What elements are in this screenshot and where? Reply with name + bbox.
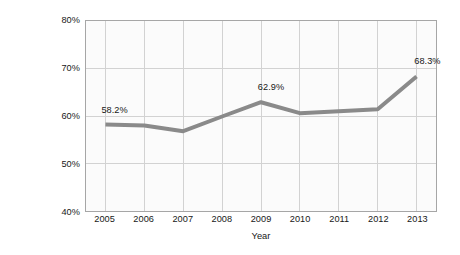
x-axis-tick-label: 2011 (329, 214, 349, 224)
x-axis-tick-label: 2013 (407, 214, 428, 224)
x-axis-title: Year (85, 231, 437, 241)
line-chart: Percentage to the Psychology Workforce 8… (0, 0, 460, 255)
x-axis-tick-label: 2005 (94, 214, 115, 224)
data-point-label: 68.3% (414, 56, 440, 66)
x-axis-tick-labels: 200520062007200820092010201120122013 (85, 214, 437, 230)
x-axis-tick-label: 2007 (172, 214, 193, 224)
y-axis-tick-label: 40% (52, 207, 80, 217)
x-axis-tick-label: 2010 (290, 214, 311, 224)
x-axis-tick-label: 2008 (212, 214, 233, 224)
x-axis-tick-label: 2006 (133, 214, 154, 224)
y-axis-tick-label: 50% (52, 159, 80, 169)
data-series-line (86, 21, 436, 211)
data-point-label: 62.9% (258, 82, 284, 92)
data-point-label: 58.2% (101, 105, 127, 115)
y-axis-title: Percentage to the Psychology Workforce (22, 0, 50, 28)
x-axis-tick-label: 2009 (251, 214, 272, 224)
plot-area (85, 20, 437, 212)
x-axis-tick-label: 2012 (368, 214, 389, 224)
y-axis-tick-labels: 80%70%60%50%40% (52, 0, 80, 255)
y-axis-tick-label: 70% (52, 63, 80, 73)
y-axis-tick-label: 60% (52, 111, 80, 121)
y-axis-tick-label: 80% (52, 15, 80, 25)
